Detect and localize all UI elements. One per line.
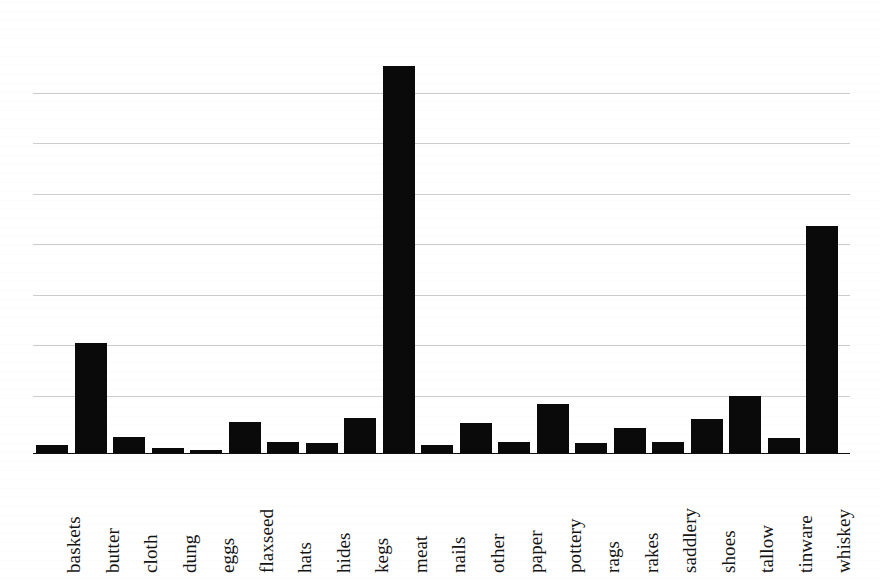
bar <box>306 443 338 453</box>
bar <box>768 438 800 453</box>
x-tick-label: meat <box>410 458 432 573</box>
x-tick-label: nails <box>448 458 470 573</box>
bar <box>652 442 684 453</box>
x-tick-label: baskets <box>63 458 85 573</box>
x-tick-label: tinware <box>795 458 817 573</box>
bar <box>36 445 68 453</box>
x-tick-label: other <box>487 458 509 573</box>
x-tick-label: saddlery <box>679 458 701 573</box>
x-tick-label: shoes <box>718 458 740 573</box>
bar-chart-figure: basketsbutterclothdungeggsflaxseedhatshi… <box>0 0 880 579</box>
bar <box>421 445 453 453</box>
x-tick-label: eggs <box>217 458 239 573</box>
bar <box>537 404 569 453</box>
x-tick-label: rakes <box>641 458 663 573</box>
bar <box>383 66 415 453</box>
x-axis-line <box>33 453 850 454</box>
x-tick-label: paper <box>525 458 547 573</box>
bar <box>575 443 607 453</box>
x-axis-tick-labels: basketsbutterclothdungeggsflaxseedhatshi… <box>33 458 850 573</box>
bar <box>75 343 107 453</box>
x-tick-label: dung <box>179 458 201 573</box>
bar <box>498 442 530 453</box>
bar <box>691 419 723 453</box>
x-tick-label: butter <box>102 458 124 573</box>
x-tick-label: hides <box>333 458 355 573</box>
bar <box>113 437 145 453</box>
bar <box>460 423 492 453</box>
bar <box>806 226 838 453</box>
bar <box>229 422 261 453</box>
bar <box>614 428 646 453</box>
x-tick-label: pottery <box>564 458 586 573</box>
x-tick-label: kegs <box>371 458 393 573</box>
bar <box>344 418 376 453</box>
bar <box>729 396 761 453</box>
bar <box>267 442 299 453</box>
x-tick-label: rags <box>602 458 624 573</box>
bars-group <box>33 60 850 453</box>
x-tick-label: tallow <box>756 458 778 573</box>
x-tick-label: flaxseed <box>256 458 278 573</box>
x-tick-label: hats <box>294 458 316 573</box>
x-tick-label: cloth <box>140 458 162 573</box>
plot-area <box>33 60 850 453</box>
x-tick-label: whiskey <box>833 458 855 573</box>
